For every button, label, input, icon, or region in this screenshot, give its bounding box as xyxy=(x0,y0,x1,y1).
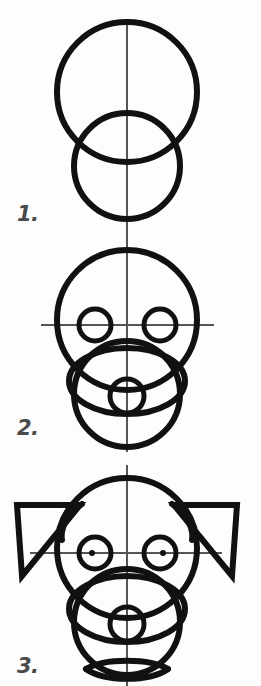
right-pupil-dot xyxy=(160,550,166,556)
step-3-number-label: 3. xyxy=(17,656,39,677)
left-pupil-dot xyxy=(89,550,95,556)
step-2-number-label: 2. xyxy=(17,418,39,439)
drawing-canvas xyxy=(0,0,261,686)
tutorial-page: 1. 2. 3. xyxy=(0,0,261,686)
step-1-number-label: 1. xyxy=(17,204,39,225)
